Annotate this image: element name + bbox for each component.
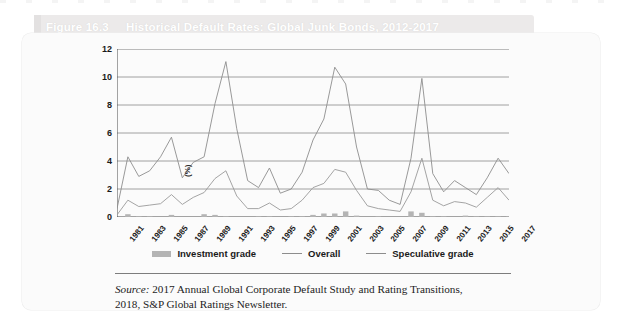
x-tick-1991: 1991 (237, 224, 255, 244)
x-tick-2007: 2007 (411, 224, 429, 244)
y-tick-12: 12 (102, 44, 112, 54)
x-tick-1983: 1983 (150, 224, 168, 244)
x-tick-2011: 2011 (454, 224, 472, 243)
source-label: Source: (115, 283, 149, 295)
legend-item-2[interactable]: Speculative grade (366, 248, 473, 259)
x-tick-2003: 2003 (367, 224, 385, 244)
source-line-2: 2018, S&P Global Ratings Newsletter. (115, 298, 287, 310)
x-tick-1981: 1981 (128, 224, 146, 244)
legend-swatch-icon (366, 253, 386, 254)
x-tick-1985: 1985 (171, 224, 189, 244)
legend-item-1[interactable]: Overall (282, 248, 340, 259)
x-tick-1997: 1997 (302, 224, 320, 244)
y-tick-6: 6 (107, 128, 112, 138)
x-tick-2017: 2017 (520, 224, 538, 244)
legend-item-0[interactable]: Investment grade (152, 248, 256, 259)
chart-legend: Investment gradeOverallSpeculative grade (117, 248, 509, 259)
legend-label: Investment grade (177, 248, 256, 259)
page-scan-edge (0, 0, 622, 9)
figure-card: (%) 024681012 19811983198519871989199119… (22, 33, 600, 310)
x-tick-2013: 2013 (476, 224, 494, 244)
y-tick-10: 10 (102, 72, 112, 82)
x-tick-1995: 1995 (280, 224, 298, 244)
legend-label: Overall (308, 248, 340, 259)
legend-swatch-icon (152, 251, 171, 257)
x-tick-2015: 2015 (498, 224, 516, 244)
y-tick-4: 4 (107, 156, 112, 166)
y-tick-2: 2 (107, 184, 112, 194)
figure-container: Figure 16.3 Historical Default Rates: Gl… (0, 0, 622, 321)
legend-label: Speculative grade (392, 248, 473, 259)
x-tick-1987: 1987 (193, 224, 211, 244)
chart-plot-area: (%) 024681012 19811983198519871989199119… (117, 49, 509, 217)
x-tick-2009: 2009 (433, 224, 451, 244)
default-rates-line-chart (117, 49, 509, 217)
source-divider (115, 273, 511, 274)
x-tick-1999: 1999 (324, 224, 342, 244)
x-tick-2005: 2005 (389, 224, 407, 244)
source-note: Source: 2017 Annual Global Corporate Def… (115, 282, 515, 311)
source-line-1: 2017 Annual Global Corporate Default Stu… (149, 283, 462, 295)
y-tick-0: 0 (107, 212, 112, 222)
x-tick-1989: 1989 (215, 224, 233, 244)
y-tick-8: 8 (107, 100, 112, 110)
figure-number: Figure 16.3 (46, 21, 109, 33)
legend-swatch-icon (282, 253, 302, 254)
x-tick-2001: 2001 (346, 224, 364, 244)
figure-title: Historical Default Rates: Global Junk Bo… (126, 21, 439, 33)
y-axis-title: (%) (183, 165, 192, 177)
x-tick-1993: 1993 (258, 224, 276, 244)
